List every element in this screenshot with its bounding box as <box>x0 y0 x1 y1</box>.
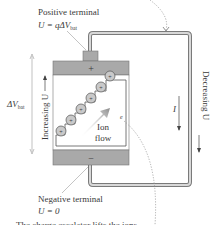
ion-icon: + <box>86 93 96 103</box>
negative-pointer-line <box>62 167 88 193</box>
increasing-u-label: Increasing U <box>40 93 50 140</box>
caption-partial: The charge escalator lifts the ions... <box>16 220 144 225</box>
current-label: I <box>172 104 177 114</box>
ion-icon: + <box>76 104 86 114</box>
delta-v-label: ΔVbat <box>6 99 25 110</box>
negative-terminal-label: Negative terminal <box>38 194 103 204</box>
minus-sign: − <box>88 153 94 164</box>
decreasing-u-label: Decreasing U <box>201 71 211 121</box>
positive-pointer-line <box>67 31 86 50</box>
ion-flow-label-2: flow <box>95 133 112 143</box>
positive-terminal-tab <box>83 51 98 61</box>
battery-escalator-diagram: + − + + + + + + Ion flow e ΔVbat Increas… <box>0 0 212 225</box>
ion-icon: + <box>56 126 66 136</box>
ion-icon: + <box>105 71 115 81</box>
positive-terminal-label: Positive terminal <box>38 7 100 17</box>
electron-label: e <box>120 114 123 120</box>
ion-flow-label-1: Ion <box>97 122 109 132</box>
ion-icon: + <box>66 115 76 125</box>
battery-interior <box>53 75 129 150</box>
negative-terminal-equation: U = 0 <box>38 206 60 216</box>
positive-terminal-equation: U = qΔVbat <box>38 20 78 31</box>
plus-sign: + <box>88 63 94 74</box>
dotted-pointer-top <box>150 0 167 30</box>
ion-icon: + <box>96 82 106 92</box>
